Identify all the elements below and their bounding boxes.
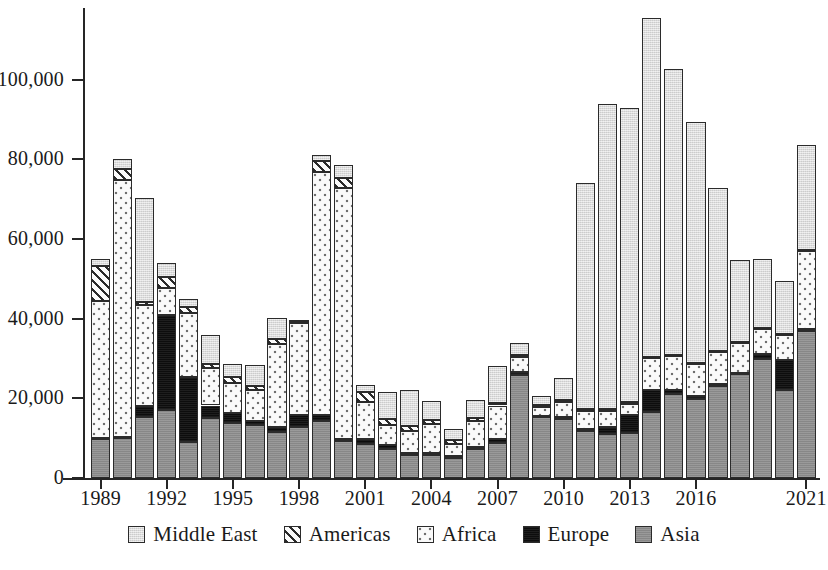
bar-segment-asia <box>466 449 485 478</box>
bar-segment-middle-east <box>223 364 242 377</box>
bar-segment-asia <box>179 442 198 478</box>
bar-segment-asia <box>135 417 154 478</box>
y-tick-mark <box>72 397 83 399</box>
legend-swatch-mideast-icon <box>128 526 145 543</box>
bar-2009 <box>532 0 551 478</box>
legend-item-mideast[interactable]: Middle East <box>128 524 257 545</box>
bar-segment-middle-east <box>312 155 331 161</box>
bar-segment-middle-east <box>576 183 595 408</box>
x-tick-label: 2021 <box>786 487 827 509</box>
bar-segment-europe <box>797 329 816 331</box>
bar-segment-asia <box>620 433 639 478</box>
bar-segment-middle-east <box>510 343 529 356</box>
bar-segment-americas <box>312 161 331 172</box>
bar-segment-europe <box>422 453 441 455</box>
y-tick-label: 100,000 <box>0 69 64 89</box>
bar-segment-americas <box>422 420 441 424</box>
bar-segment-americas <box>708 351 727 353</box>
bar-segment-europe <box>620 415 639 433</box>
bar-segment-africa <box>135 305 154 407</box>
bar-segment-americas <box>664 355 683 357</box>
bar-segment-middle-east <box>334 165 353 178</box>
bar-2003 <box>400 0 419 478</box>
bar-segment-europe <box>312 415 331 421</box>
bar-segment-europe <box>356 439 375 444</box>
bar-segment-africa <box>179 313 198 377</box>
bar-segment-middle-east <box>378 392 397 418</box>
bar-segment-americas <box>444 440 463 444</box>
bar-2007 <box>488 0 507 478</box>
bar-segment-asia <box>157 410 176 478</box>
bar-segment-asia <box>422 455 441 478</box>
bar-2015 <box>664 0 683 478</box>
bar-segment-americas <box>289 322 308 324</box>
bar-segment-asia <box>289 427 308 478</box>
bar-segment-africa <box>753 329 772 354</box>
bar-segment-africa <box>157 288 176 315</box>
bar-segment-asia <box>488 443 507 478</box>
bar-1992 <box>157 0 176 478</box>
bar-segment-middle-east <box>532 396 551 404</box>
bar-segment-asia <box>245 425 264 478</box>
bar-2017 <box>708 0 727 478</box>
bar-segment-americas <box>532 405 551 407</box>
bar-2002 <box>378 0 397 478</box>
bar-1994 <box>201 0 220 478</box>
bar-segment-europe <box>245 421 264 425</box>
bar-1999 <box>312 0 331 478</box>
legend-swatch-europe-icon <box>523 526 540 543</box>
y-tick-label: 0 <box>54 467 64 487</box>
bar-segment-africa <box>576 411 595 430</box>
x-axis-line <box>63 478 820 480</box>
legend-swatch-africa-icon <box>417 526 434 543</box>
bar-segment-middle-east <box>157 263 176 277</box>
x-tick-label: 1989 <box>80 487 121 509</box>
bar-segment-middle-east <box>598 104 617 410</box>
bar-segment-africa <box>312 172 331 415</box>
bar-segment-asia <box>598 434 617 478</box>
bar-2013 <box>620 0 639 478</box>
bar-segment-europe <box>753 354 772 358</box>
bar-segment-europe <box>444 456 463 458</box>
bar-segment-americas <box>378 419 397 425</box>
bar-segment-americas <box>356 392 375 402</box>
bar-segment-middle-east <box>620 108 639 403</box>
x-tick-label: 2001 <box>345 487 386 509</box>
legend-item-europe[interactable]: Europe <box>523 524 610 545</box>
legend-item-africa[interactable]: Africa <box>417 524 497 545</box>
bar-segment-middle-east <box>488 366 507 403</box>
y-tick-mark <box>72 238 83 240</box>
bar-segment-europe <box>91 438 110 440</box>
bar-segment-asia <box>664 394 683 478</box>
bar-segment-europe <box>532 416 551 418</box>
bar-segment-asia <box>708 386 727 478</box>
y-tick-label: 60,000 <box>8 228 64 248</box>
bar-segment-middle-east <box>356 385 375 393</box>
bar-segment-middle-east <box>686 122 705 363</box>
legend-item-asia[interactable]: Asia <box>635 524 699 545</box>
bar-segment-europe <box>576 429 595 431</box>
bar-segment-europe <box>598 427 617 434</box>
bar-segment-africa <box>686 364 705 396</box>
bar-segment-middle-east <box>664 69 683 355</box>
legend-item-americas[interactable]: Americas <box>284 524 391 545</box>
y-tick-mark <box>72 318 83 320</box>
legend-label: Asia <box>660 524 699 545</box>
x-tick-label: 1995 <box>212 487 253 509</box>
bar-2005 <box>444 0 463 478</box>
bar-1996 <box>245 0 264 478</box>
bar-segment-asia <box>554 419 573 478</box>
bar-segment-americas <box>576 409 595 411</box>
bar-segment-africa <box>664 356 683 389</box>
bar-2019 <box>753 0 772 478</box>
bar-segment-europe <box>135 406 154 416</box>
y-tick-label: 20,000 <box>8 387 64 407</box>
bar-1995 <box>223 0 242 478</box>
bar-segment-europe <box>510 372 529 375</box>
bar-2020 <box>775 0 794 478</box>
bar-segment-middle-east <box>642 18 661 357</box>
bar-segment-europe <box>642 390 661 412</box>
bar-segment-africa <box>510 357 529 372</box>
bar-segment-asia <box>223 423 242 478</box>
bar-2006 <box>466 0 485 478</box>
